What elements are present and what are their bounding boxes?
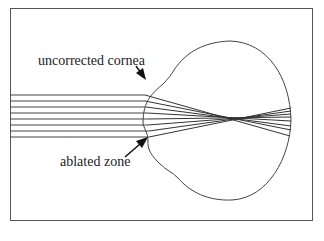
label-uncorrected-cornea: uncorrected cornea: [38, 53, 145, 69]
incoming-rays: [10, 95, 149, 137]
eye-outline: [143, 41, 291, 200]
label-ablated-zone: ablated zone: [60, 154, 130, 170]
eye-ray-diagram: [0, 0, 324, 241]
refracted-rays: [145, 95, 291, 137]
